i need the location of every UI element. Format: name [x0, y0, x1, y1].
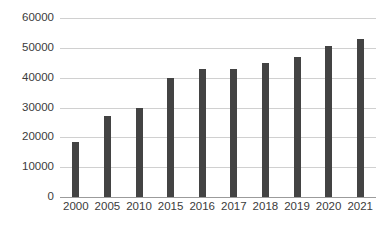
bar — [262, 63, 269, 197]
y-axis-tick-label: 30000 — [22, 102, 54, 114]
bar — [136, 108, 143, 198]
y-axis-tick-label: 0 — [48, 191, 54, 203]
y-axis-tick-label: 50000 — [22, 42, 54, 54]
bar — [199, 69, 206, 197]
x-axis-tick-label: 2018 — [253, 201, 279, 213]
x-axis-tick-label: 2000 — [63, 201, 89, 213]
bar — [167, 78, 174, 197]
bar — [104, 116, 111, 197]
bar — [357, 39, 364, 197]
x-axis-baseline — [60, 197, 376, 198]
bar-series — [60, 18, 376, 197]
x-axis-tick-label: 2015 — [158, 201, 184, 213]
y-axis-tick-label: 20000 — [22, 132, 54, 144]
y-axis-tick-label: 40000 — [22, 72, 54, 84]
x-axis-tick-label: 2021 — [347, 201, 373, 213]
x-axis-tick-label: 2017 — [221, 201, 247, 213]
y-axis-tick-label: 10000 — [22, 161, 54, 173]
bar — [72, 142, 79, 197]
x-axis-labels: 2000200520102015201620172018201920202021 — [60, 201, 376, 221]
x-axis-tick-label: 2019 — [284, 201, 310, 213]
bar-chart: 0100002000030000400005000060000 20002005… — [0, 0, 386, 230]
y-axis-tick-label: 60000 — [22, 12, 54, 24]
bar — [230, 69, 237, 197]
x-axis-tick-label: 2016 — [189, 201, 215, 213]
bar — [294, 57, 301, 197]
y-axis-labels: 0100002000030000400005000060000 — [0, 0, 54, 230]
x-axis-tick-label: 2010 — [126, 201, 152, 213]
x-axis-tick-label: 2005 — [95, 201, 121, 213]
bar — [325, 46, 332, 197]
x-axis-tick-label: 2020 — [316, 201, 342, 213]
